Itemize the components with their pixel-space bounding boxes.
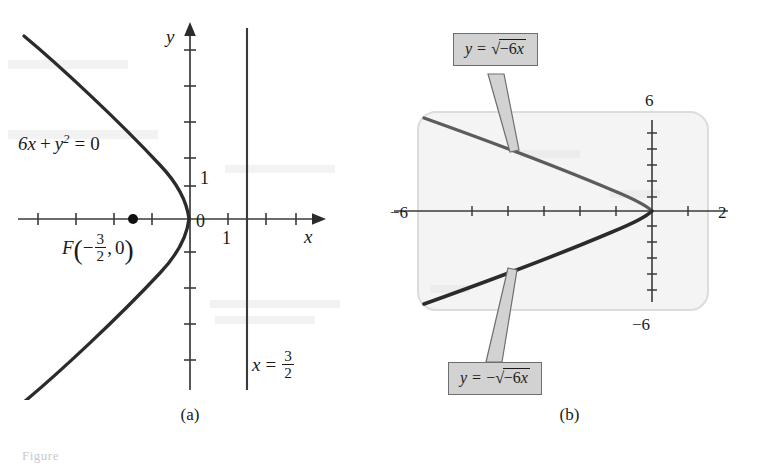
directrix-frac-den: 2 (282, 364, 293, 381)
eq-var-y: y (55, 133, 63, 154)
callout-top-coef: 6 (509, 40, 517, 57)
focus-point (128, 214, 138, 224)
callout-bottom-var: x (521, 369, 528, 386)
focus-close-paren: ) (124, 234, 133, 265)
calc-xmax-label: 2 (718, 203, 727, 222)
graph-a-svg (0, 0, 380, 400)
focus-frac-num: 3 (95, 231, 106, 247)
callout-bottom-lead-minus: − (486, 369, 495, 386)
focus-letter: F (62, 237, 74, 258)
graph-b-svg: −6 2 6 −6 (380, 0, 759, 400)
callout-top-minus: − (500, 40, 509, 57)
callout-bottom-coef: 6 (513, 369, 521, 386)
callout-top-equals: = (472, 40, 491, 57)
focus-fraction: 32 (95, 231, 106, 263)
x-axis (18, 213, 326, 225)
callout-bottom-radical-group: √−6x (495, 368, 529, 388)
eq-exponent: 2 (63, 131, 69, 146)
directrix-fraction: 32 (282, 348, 293, 380)
x-axis-label: x (304, 226, 312, 248)
page-showthrough (8, 60, 340, 324)
focus-frac-den: 2 (95, 247, 106, 264)
focus-label: F(−32,0) (62, 231, 134, 266)
callout-bottom-equals: = (467, 369, 486, 386)
callout-lower-equation: y=−√−6x (448, 362, 542, 395)
figure-number-label: Figure (22, 448, 59, 464)
callout-upper-equation: y=√−6x (453, 33, 538, 66)
focus-open-paren: ( (74, 234, 83, 265)
y-axis-label: y (166, 26, 174, 48)
panel-a: 6x+y2=0 F(−32,0) x=32 y x 0 1 1 (a) (0, 0, 380, 458)
panel-b-caption: (b) (380, 405, 759, 425)
panel-b: −6 2 6 −6 y=√−6x y=−√−6x (b) (380, 0, 759, 458)
callout-top-var: x (517, 40, 524, 57)
directrix-equals: = (260, 354, 281, 375)
calc-ymax-label: 6 (645, 91, 654, 110)
callout-top-radical-group: √−6x (491, 39, 525, 59)
eq-plus: + (36, 133, 55, 154)
callout-bottom-radicand: −6x (503, 368, 529, 387)
eq-var-x: x (28, 133, 36, 154)
callout-top-radicand: −6x (499, 39, 525, 58)
eq-equals: = (70, 133, 91, 154)
panel-a-caption: (a) (0, 405, 380, 425)
focus-minus: − (83, 237, 94, 258)
calc-ymin-label: −6 (632, 315, 650, 334)
focus-zero: 0 (112, 237, 125, 258)
x-tick-label-1: 1 (222, 228, 231, 249)
equation-label-a: 6x+y2=0 (18, 131, 100, 155)
y-tick-label-1: 1 (200, 168, 209, 189)
directrix-label: x=32 (252, 348, 295, 380)
origin-label: 0 (196, 211, 205, 232)
parabola-curve (24, 36, 189, 400)
calc-xmin-label: −6 (390, 203, 408, 222)
directrix-frac-num: 3 (282, 348, 293, 364)
eq-rhs: 0 (90, 133, 100, 154)
callout-bottom-minus: − (504, 369, 513, 386)
eq-coef: 6 (18, 133, 28, 154)
